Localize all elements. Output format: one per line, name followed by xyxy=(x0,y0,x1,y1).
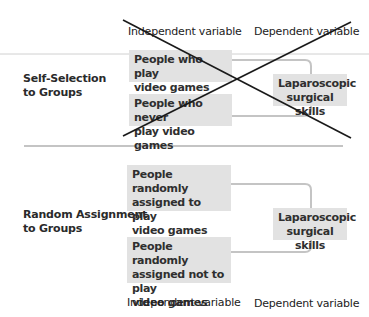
cross-out-x-icon xyxy=(0,0,369,317)
